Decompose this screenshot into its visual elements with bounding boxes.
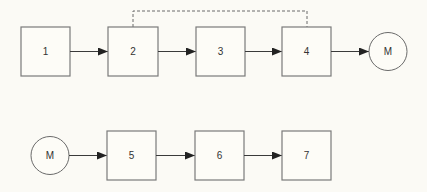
motor-bottom-label: M [46, 150, 54, 161]
node-1-label: 1 [43, 46, 49, 57]
node-3: 3 [196, 27, 245, 76]
node-1: 1 [21, 27, 70, 76]
feedback-dashed-line [133, 11, 307, 27]
node-2: 2 [108, 27, 158, 76]
node-6-label: 6 [217, 150, 223, 161]
node-7-label: 7 [304, 150, 310, 161]
motor-top: M [369, 33, 407, 71]
motor-top-label: M [384, 46, 392, 57]
block-diagram: 1 2 3 4 M M 5 6 7 [0, 0, 427, 192]
node-4-label: 4 [304, 46, 310, 57]
node-4: 4 [282, 27, 331, 76]
node-3-label: 3 [218, 46, 224, 57]
motor-bottom: M [31, 137, 69, 175]
node-5-label: 5 [129, 150, 135, 161]
node-6: 6 [195, 131, 244, 180]
node-7: 7 [282, 131, 331, 180]
node-5: 5 [107, 131, 156, 180]
node-2-label: 2 [130, 46, 136, 57]
